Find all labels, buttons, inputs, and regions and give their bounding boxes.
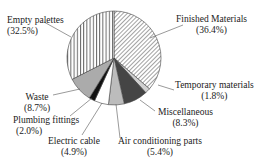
label-pct: (32.5%) [7, 26, 64, 37]
leader-waste [53, 89, 80, 95]
label-pct: (8.3%) [158, 118, 213, 129]
leader-plumbing [70, 98, 92, 116]
label-plumbing-fittings: Plumbing fittings (2.0%) [13, 115, 79, 137]
label-pct: (5.4%) [118, 147, 202, 158]
label-waste: Waste (8.7%) [24, 92, 50, 114]
label-name: Air conditioning parts [118, 136, 202, 147]
leader-cable [82, 103, 102, 135]
label-name: Temporary materials [175, 80, 254, 91]
label-name: Empty palettes [7, 15, 64, 26]
label-empty-palettes: Empty palettes (32.5%) [7, 15, 64, 37]
label-electric-cable: Electric cable (4.9%) [48, 136, 100, 158]
label-name: Waste [24, 92, 50, 103]
label-pct: (4.9%) [48, 147, 100, 158]
label-finished-materials: Finished Materials (36.4%) [176, 14, 247, 36]
label-pct: (1.8%) [175, 91, 254, 102]
label-name: Miscellaneous [158, 107, 213, 118]
leader-misc [140, 100, 155, 111]
pie-slices [67, 11, 161, 105]
label-temporary-materials: Temporary materials (1.8%) [175, 80, 254, 102]
label-name: Plumbing fittings [13, 115, 79, 126]
label-name: Electric cable [48, 136, 100, 147]
label-air-conditioning-parts: Air conditioning parts (5.4%) [118, 136, 202, 158]
label-pct: (36.4%) [176, 25, 247, 36]
label-name: Finished Materials [176, 14, 247, 25]
label-pct: (2.0%) [13, 126, 79, 137]
leader-aircon [116, 104, 120, 138]
label-pct: (8.7%) [24, 103, 50, 114]
label-miscellaneous: Miscellaneous (8.3%) [158, 107, 213, 129]
leader-temporary [158, 85, 174, 90]
